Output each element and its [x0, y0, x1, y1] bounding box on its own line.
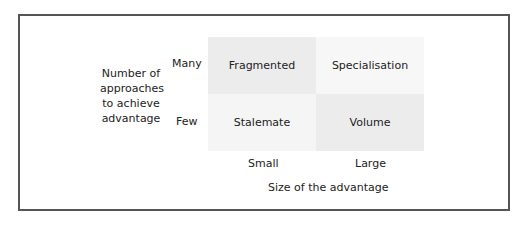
cell-specialisation: Specialisation [316, 37, 424, 94]
x-tick-large: Large [355, 157, 386, 170]
x-tick-small: Small [248, 157, 279, 170]
cell-stalemate: Stalemate [208, 94, 316, 151]
y-axis-label-line: to achieve [100, 96, 162, 111]
y-axis-label-line: Number of [100, 66, 162, 81]
y-axis-label-line: approaches [100, 81, 162, 96]
cell-fragmented: Fragmented [208, 37, 316, 94]
y-tick-few: Few [176, 115, 198, 128]
cell-volume: Volume [316, 94, 424, 151]
y-axis-label: Number of approaches to achieve advantag… [100, 66, 162, 126]
y-tick-many: Many [172, 57, 202, 70]
x-axis-label: Size of the advantage [268, 181, 388, 194]
y-axis-label-line: advantage [100, 111, 162, 126]
